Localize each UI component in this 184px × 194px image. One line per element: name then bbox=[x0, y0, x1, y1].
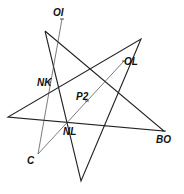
geometry-diagram: OI OL NK P2 NL BO C bbox=[0, 0, 184, 194]
label-bo: BO bbox=[156, 134, 171, 145]
label-nl: NL bbox=[63, 126, 76, 137]
segment-c-ol bbox=[38, 61, 124, 154]
label-nk: NK bbox=[37, 77, 52, 88]
label-c: C bbox=[27, 155, 35, 166]
label-p2: P2 bbox=[76, 91, 89, 102]
label-oi: OI bbox=[53, 7, 64, 18]
label-ol: OL bbox=[124, 56, 138, 67]
